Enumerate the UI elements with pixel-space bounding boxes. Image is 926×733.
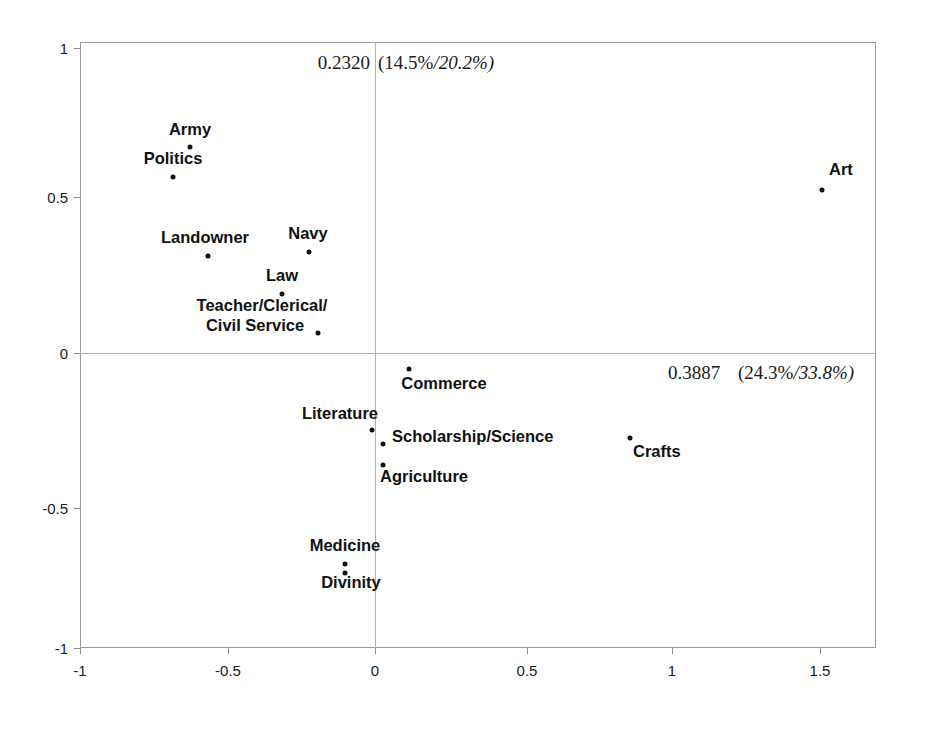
horizontal-inertia-pct-second: /33.8%) xyxy=(793,362,854,383)
data-point-scholarship-science[interactable] xyxy=(381,442,386,447)
y-axis-tick-label--1: -1 xyxy=(20,640,68,657)
vertical-axis-inertia-eigenvalue: 0.2320 xyxy=(318,52,374,74)
x-axis-tick-label--1: -1 xyxy=(73,662,86,679)
point-label-law: Law xyxy=(266,267,298,284)
x-tick-mark--1 xyxy=(80,648,81,654)
x-tick-mark--0.5 xyxy=(228,648,229,654)
y-axis-tick-label-0.5: 0.5 xyxy=(20,189,68,206)
horizontal-axis-inertia-eigenvalue: 0.3887 xyxy=(668,362,720,384)
x-axis-tick-label-1: 1 xyxy=(668,662,676,679)
point-label-politics: Politics xyxy=(144,150,203,167)
point-label-navy: Navy xyxy=(288,225,327,242)
correspondence-analysis-scatter-plot: 1 0.5 0 -0.5 -1 -1 -0.5 0 0.5 1 1.5 0.23… xyxy=(0,0,926,733)
data-point-medicine[interactable] xyxy=(343,562,348,567)
horizontal-zero-axis xyxy=(80,353,876,354)
data-point-art[interactable] xyxy=(820,188,825,193)
y-axis-tick-label-0: 0 xyxy=(20,345,68,362)
data-point-politics[interactable] xyxy=(171,175,176,180)
point-label-medicine: Medicine xyxy=(310,537,381,554)
vertical-inertia-pct-first: (14.5% xyxy=(378,52,433,73)
y-axis-tick-label--0.5: -0.5 xyxy=(20,500,68,517)
horizontal-axis-inertia-percents: (24.3%/33.8%) xyxy=(738,362,854,384)
data-point-teacher-clerical-civil-service[interactable] xyxy=(316,331,321,336)
x-axis-tick-label--0.5: -0.5 xyxy=(215,662,241,679)
point-label-landowner: Landowner xyxy=(161,229,249,246)
data-point-landowner[interactable] xyxy=(206,254,211,259)
vertical-zero-axis xyxy=(375,42,376,648)
point-label-civil-service-line2: Civil Service xyxy=(206,317,304,334)
point-label-army: Army xyxy=(169,121,211,138)
vertical-inertia-pct-second: /20.2%) xyxy=(433,52,494,73)
y-axis-tick-label-1: 1 xyxy=(20,40,68,57)
x-axis-tick-label-1.5: 1.5 xyxy=(810,662,831,679)
point-label-divinity: Divinity xyxy=(321,574,381,591)
point-label-commerce: Commerce xyxy=(401,375,486,392)
point-label-literature: Literature xyxy=(302,405,378,422)
data-point-literature[interactable] xyxy=(370,428,375,433)
y-tick-mark--0.5 xyxy=(74,508,80,509)
x-tick-mark-0 xyxy=(375,648,376,654)
vertical-axis-inertia-percents: (14.5%/20.2%) xyxy=(378,52,494,74)
point-label-agriculture: Agriculture xyxy=(380,468,468,485)
point-label-crafts: Crafts xyxy=(633,443,681,460)
horizontal-inertia-pct-first: (24.3% xyxy=(738,362,793,383)
data-point-commerce[interactable] xyxy=(407,367,412,372)
y-tick-mark-0 xyxy=(74,353,80,354)
x-tick-mark-0.5 xyxy=(527,648,528,654)
y-tick-mark-0.5 xyxy=(74,197,80,198)
point-label-art: Art xyxy=(829,161,853,178)
x-axis-tick-label-0: 0 xyxy=(371,662,379,679)
x-axis-tick-label-0.5: 0.5 xyxy=(517,662,538,679)
point-label-teacher-clerical-line1: Teacher/Clerical/ xyxy=(197,297,328,314)
x-tick-mark-1 xyxy=(672,648,673,654)
data-point-navy[interactable] xyxy=(307,250,312,255)
point-label-scholarship-science: Scholarship/Science xyxy=(392,428,553,445)
data-point-crafts[interactable] xyxy=(628,436,633,441)
y-tick-mark-1 xyxy=(74,48,80,49)
x-tick-mark-1.5 xyxy=(820,648,821,654)
